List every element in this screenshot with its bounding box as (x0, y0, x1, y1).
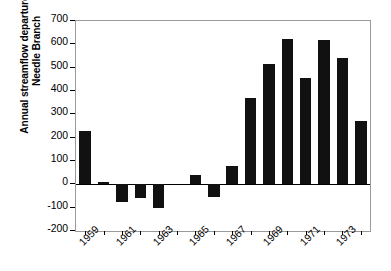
bar-1966 (208, 184, 219, 197)
y-tick-label-200: 200 (34, 130, 68, 141)
plot-inner (76, 21, 370, 231)
y-tick-label-500: 500 (34, 60, 68, 71)
plot-area (75, 20, 371, 232)
bar-1974 (355, 121, 366, 184)
bar-1973 (337, 58, 348, 184)
bar-1965 (190, 175, 201, 184)
bar-1972 (318, 40, 329, 185)
bar-1970 (282, 39, 293, 185)
x-tick-1966 (214, 231, 215, 235)
x-tick-1970 (287, 231, 288, 235)
bar-1962 (135, 184, 146, 198)
y-axis-labels: 7006005004003002001000-100-200 (0, 20, 75, 232)
y-tick-label--200: -200 (34, 223, 68, 234)
x-tick-1974 (361, 231, 362, 235)
x-axis-labels: 19591961196319651967196919711973 (75, 238, 371, 271)
x-tick-1964 (177, 231, 178, 235)
bar-1961 (116, 184, 127, 202)
y-tick-label-100: 100 (34, 153, 68, 164)
x-tick-1962 (140, 231, 141, 235)
x-tick-1960 (104, 231, 105, 235)
y-tick-label--100: -100 (34, 200, 68, 211)
x-tick-1968 (251, 231, 252, 235)
y-tick-label-400: 400 (34, 83, 68, 94)
bar-1969 (263, 64, 274, 184)
y-tick-label-300: 300 (34, 106, 68, 117)
bar-1960 (98, 182, 109, 184)
y-tick-label-700: 700 (34, 13, 68, 24)
y-tick-label-600: 600 (34, 36, 68, 47)
bar-1967 (226, 166, 237, 185)
bar-1963 (153, 184, 164, 207)
y-tick-label-0: 0 (34, 176, 68, 187)
bar-1959 (79, 131, 90, 185)
x-tick-1972 (324, 231, 325, 235)
bar-1968 (245, 98, 256, 184)
chart-figure: Annual streamflow departure (mm) Needle … (0, 0, 391, 271)
bar-1971 (300, 78, 311, 184)
